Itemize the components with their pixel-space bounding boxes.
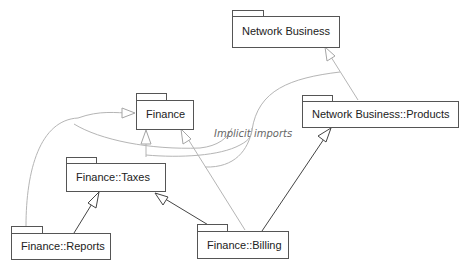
- arrowhead-products-network-icon: [325, 47, 335, 61]
- package-tab: [303, 96, 333, 102]
- package-finance[interactable]: Finance: [137, 94, 194, 130]
- package-tab: [137, 94, 167, 101]
- package-label: Network Business::Products: [312, 108, 450, 120]
- package-label: Finance: [146, 108, 185, 120]
- package-tab: [233, 11, 264, 17]
- package-finance-billing[interactable]: Finance::Billing: [198, 225, 289, 259]
- package-label: Finance::Billing: [207, 239, 282, 251]
- package-finance-taxes[interactable]: Finance::Taxes: [67, 158, 166, 192]
- package-label: Finance::Reports: [21, 240, 105, 252]
- package-finance-reports[interactable]: Finance::Reports: [12, 227, 111, 260]
- arrowhead-billing-products-icon: [318, 128, 331, 142]
- package-tab: [67, 158, 97, 164]
- arrowhead-taxes-finance-icon: [141, 130, 151, 144]
- package-label: Network Business: [242, 25, 331, 37]
- arrowhead-reports-finance-icon: [122, 108, 135, 118]
- arrowhead-billing-taxes-icon: [155, 193, 168, 205]
- implicit-imports-label: Implicit imports: [214, 128, 292, 139]
- package-label: Finance::Taxes: [76, 171, 150, 183]
- dependency-billing-to-products: [262, 130, 330, 231]
- package-tab: [12, 227, 43, 234]
- package-network-business[interactable]: Network Business: [233, 11, 340, 48]
- package-network-business-products[interactable]: Network Business::Products: [303, 96, 459, 128]
- package-diagram: Network Business Finance Network Busines…: [0, 0, 462, 270]
- package-tab: [198, 225, 228, 232]
- arrowhead-reports-taxes-icon: [88, 192, 99, 208]
